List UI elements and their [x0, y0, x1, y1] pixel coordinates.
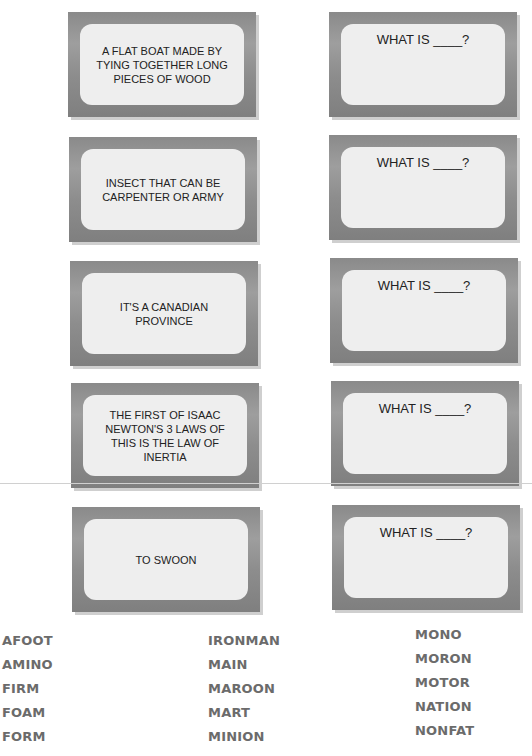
word-bank-item: MOTOR — [415, 671, 474, 695]
word-bank-item: FOAM — [2, 701, 53, 725]
answer-card-1: WHAT IS ____? — [329, 12, 517, 117]
word-bank-column-1: AFOOT AMINO FIRM FOAM FORM — [2, 629, 53, 749]
answer-card-3: WHAT IS ____? — [330, 258, 518, 363]
answer-card-2: WHAT IS ____? — [329, 135, 517, 240]
answer-prompt: WHAT IS ____? — [343, 393, 507, 474]
word-bank-item: AFOOT — [2, 629, 53, 653]
clue-text: TO SWOON — [84, 519, 248, 600]
clue-card-4: THE FIRST OF ISAAC NEWTON'S 3 LAWS OF TH… — [71, 383, 259, 488]
word-bank-item: MONO — [415, 623, 474, 647]
clue-text: A FLAT BOAT MADE BY TYING TOGETHER LONG … — [80, 24, 244, 105]
word-bank-item: IRONMAN — [208, 629, 280, 653]
word-bank-item: NONFAT — [415, 719, 474, 743]
word-bank-column-2: IRONMAN MAIN MAROON MART MINION — [208, 629, 280, 749]
word-bank-item: MAROON — [208, 677, 280, 701]
clue-card-5: TO SWOON — [72, 507, 260, 612]
word-bank-column-3: MONO MORON MOTOR NATION NONFAT — [415, 623, 474, 743]
answer-card-4: WHAT IS ____? — [331, 381, 519, 486]
answer-prompt: WHAT IS ____? — [341, 147, 505, 228]
word-bank-item: AMINO — [2, 653, 53, 677]
word-bank-item: MINION — [208, 725, 280, 749]
clue-card-3: IT'S A CANADIAN PROVINCE — [70, 261, 258, 366]
word-bank-item: FORM — [2, 725, 53, 749]
answer-prompt: WHAT IS ____? — [344, 517, 508, 598]
word-bank-item: MART — [208, 701, 280, 725]
clue-text: THE FIRST OF ISAAC NEWTON'S 3 LAWS OF TH… — [83, 395, 247, 476]
clue-card-1: A FLAT BOAT MADE BY TYING TOGETHER LONG … — [68, 12, 256, 117]
word-bank-item: FIRM — [2, 677, 53, 701]
word-bank-item: MAIN — [208, 653, 280, 677]
word-bank-item: MORON — [415, 647, 474, 671]
answer-card-5: WHAT IS ____? — [332, 505, 520, 610]
word-bank-item: NATION — [415, 695, 474, 719]
clue-text: INSECT THAT CAN BE CARPENTER OR ARMY — [81, 149, 245, 230]
divider-line — [0, 483, 532, 484]
answer-prompt: WHAT IS ____? — [341, 24, 505, 105]
clue-text: IT'S A CANADIAN PROVINCE — [82, 273, 246, 354]
clue-card-2: INSECT THAT CAN BE CARPENTER OR ARMY — [69, 137, 257, 242]
answer-prompt: WHAT IS ____? — [342, 270, 506, 351]
